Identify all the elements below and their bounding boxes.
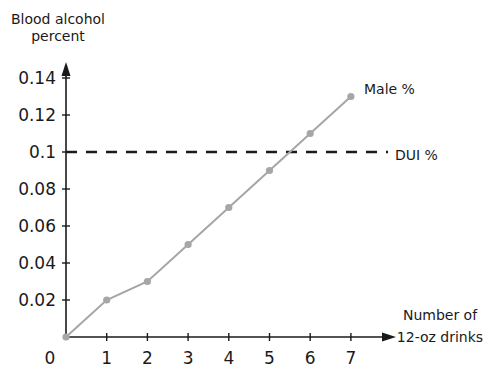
x-axis-arrow-icon <box>382 333 396 342</box>
y-axis-label-line1: Blood alcohol <box>11 11 105 27</box>
x-tick-label: 6 <box>305 348 316 368</box>
y-tick-label: 0.14 <box>18 68 56 88</box>
y-tick-label: 0.06 <box>18 216 56 236</box>
y-axis-arrow-icon <box>62 62 71 76</box>
y-tick-label: 0.08 <box>18 179 56 199</box>
blood-alcohol-chart: 0.020.040.060.080.10.120.14 01234567 Blo… <box>0 0 490 373</box>
data-point <box>62 333 69 340</box>
data-point <box>144 278 151 285</box>
male-series <box>62 93 354 341</box>
y-axis-label-line2: percent <box>31 28 85 44</box>
data-point <box>266 167 273 174</box>
x-tick-label: 7 <box>345 348 356 368</box>
axes <box>62 62 397 342</box>
x-tick-label: 1 <box>101 348 112 368</box>
x-axis-label-line2: 12-oz drinks <box>397 329 483 345</box>
y-tick-label: 0.02 <box>18 290 56 310</box>
reference-label-dui: DUI % <box>395 147 438 163</box>
y-tick-label: 0.12 <box>18 105 56 125</box>
data-point <box>225 204 232 211</box>
y-ticks: 0.020.040.060.080.10.120.14 <box>18 68 70 310</box>
data-point <box>307 130 314 137</box>
x-tick-label: 2 <box>142 348 153 368</box>
x-ticks: 01234567 <box>45 333 357 368</box>
x-tick-label: 5 <box>264 348 275 368</box>
y-tick-label: 0.1 <box>29 142 56 162</box>
data-point <box>347 93 354 100</box>
x-axis-label-line1: Number of <box>403 307 478 323</box>
data-point <box>185 241 192 248</box>
data-point <box>103 296 110 303</box>
x-tick-label: 4 <box>223 348 234 368</box>
x-tick-label: 0 <box>45 348 56 368</box>
y-tick-label: 0.04 <box>18 253 56 273</box>
x-tick-label: 3 <box>183 348 194 368</box>
series-label-male: Male % <box>364 81 415 97</box>
